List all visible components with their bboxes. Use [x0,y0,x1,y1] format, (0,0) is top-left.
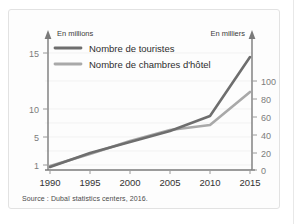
left-tick-label-10: 10 [29,105,39,115]
x-tick-label-2000: 2000 [119,177,140,188]
figure-container: 15 10 5 1 100 80 60 40 20 0 En millions … [8,9,280,209]
left-tick-label-5: 5 [34,133,39,143]
page-margin-rule [293,0,294,224]
left-tick-label-15: 15 [29,49,39,59]
chart-plot-area: 15 10 5 1 100 80 60 40 20 0 En millions … [9,10,281,210]
legend-label-tourists: Nombre de touristes [89,43,175,54]
right-axis-arrow [249,30,256,39]
gridlines [45,53,252,165]
right-axis-ticks [252,81,257,170]
series-line-tourists [50,57,250,167]
x-tick-label-2005: 2005 [159,177,180,188]
x-tick-label-1990: 1990 [39,177,60,188]
left-tick-label-1: 1 [34,161,39,171]
right-tick-label-100: 100 [261,77,276,87]
right-tick-label-20: 20 [261,149,271,159]
right-tick-label-40: 40 [261,131,271,141]
x-tick-label-2010: 2010 [199,177,220,188]
source-caption: Source : Dubaï statistics centers, 2016. [22,195,148,202]
right-axis [249,30,256,170]
left-axis-arrow [45,30,52,39]
x-tick-label-2015: 2015 [239,177,260,188]
left-axis-title: En millions [57,29,94,38]
dual-axis-line-chart: 15 10 5 1 100 80 60 40 20 0 En millions … [9,10,281,210]
left-axis [45,30,52,170]
left-axis-ticks [43,53,48,165]
chart-legend: Nombre de touristes Nombre de chambres d… [55,43,211,70]
legend-label-hotel-rooms: Nombre de chambres d'hôtel [89,59,211,70]
right-tick-label-80: 80 [261,95,271,105]
right-axis-title: En milliers [210,29,245,38]
x-tick-label-1995: 1995 [79,177,100,188]
right-tick-label-60: 60 [261,113,271,123]
right-tick-label-0: 0 [261,166,266,176]
